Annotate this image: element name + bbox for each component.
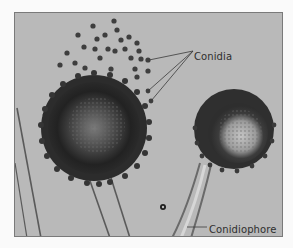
conidial-head-right (193, 89, 277, 173)
label-conidia: Conidia (194, 51, 232, 62)
conidial-head-left (38, 70, 152, 187)
micrograph-figure: Conidia Conidiophore (14, 12, 283, 237)
micrograph-image (15, 13, 283, 237)
conidiophore-stalk (172, 163, 211, 237)
label-conidiophore: Conidiophore (209, 224, 277, 235)
